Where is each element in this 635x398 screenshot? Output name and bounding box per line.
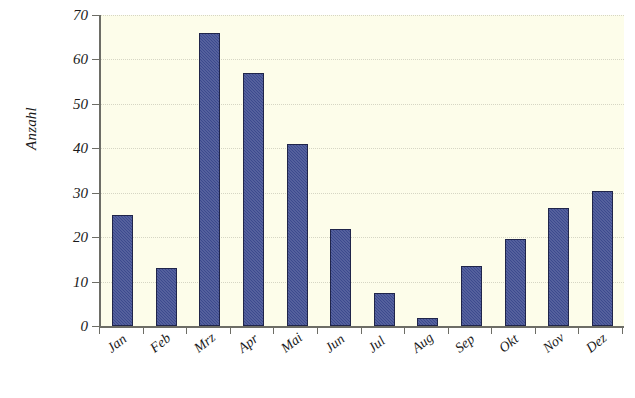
bar (505, 239, 526, 326)
x-axis-tick-mark (491, 327, 492, 334)
bar (112, 215, 133, 326)
y-axis-tick-mark (92, 104, 99, 105)
y-axis-tick-label: 30 (42, 184, 88, 201)
x-axis-tick-label: Jul (365, 333, 388, 356)
x-axis-tick-mark (186, 327, 187, 334)
bar (156, 268, 177, 326)
x-axis-tick-marks (99, 327, 624, 335)
bar (287, 144, 308, 326)
bar (548, 208, 569, 326)
y-axis-tick-mark (92, 193, 99, 194)
x-axis-tick-mark (404, 327, 405, 334)
y-axis-tick-label: 70 (42, 7, 88, 24)
y-axis-tick-mark (92, 59, 99, 60)
x-axis-tick-mark (317, 327, 318, 334)
y-axis-tick-mark (92, 282, 99, 283)
x-axis-tick-label: Jun (322, 331, 348, 356)
bar-chart: Anzahl 010203040506070 JanFebMrzAprMaiJu… (0, 0, 635, 398)
x-axis-tick-mark (535, 327, 536, 334)
bar (461, 266, 482, 326)
x-axis-tick-mark (230, 327, 231, 334)
y-axis-tick-label: 0 (42, 318, 88, 335)
y-axis-title: Anzahl (23, 84, 40, 174)
y-axis-tick-mark (92, 15, 99, 16)
bar (374, 293, 395, 326)
y-axis-tick-label: 60 (42, 51, 88, 68)
y-axis-tick-label: 50 (42, 95, 88, 112)
y-axis-tick-label: 20 (42, 229, 88, 246)
bar (592, 191, 613, 327)
x-axis-tick-mark (448, 327, 449, 334)
x-axis-tick-mark (622, 327, 623, 334)
x-axis-tick-mark (99, 327, 100, 334)
y-axis-tick-labels: 010203040506070 (42, 0, 88, 398)
x-axis-tick-label: Okt (496, 331, 522, 356)
x-axis-tick-label: Jan (104, 331, 130, 356)
plot-area (99, 15, 624, 328)
x-axis-tick-mark (143, 327, 144, 334)
bar (243, 73, 264, 326)
y-axis-tick-mark (92, 237, 99, 238)
x-axis-tick-mark (361, 327, 362, 334)
bar (199, 33, 220, 326)
y-axis-tick-mark (92, 326, 99, 327)
y-axis-tick-label: 40 (42, 140, 88, 157)
x-axis-tick-mark (273, 327, 274, 334)
bar (417, 318, 438, 326)
y-axis-tick-label: 10 (42, 273, 88, 290)
bars-layer (101, 15, 624, 326)
y-axis-tick-mark (92, 148, 99, 149)
x-axis-tick-labels: JanFebMrzAprMaiJunJulAugSepOktNovDez (99, 336, 629, 398)
x-axis-tick-mark (578, 327, 579, 334)
bar (330, 229, 351, 326)
x-axis-tick-label: Sep (453, 331, 479, 356)
